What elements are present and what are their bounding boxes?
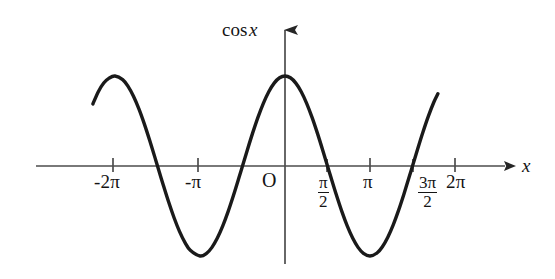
origin-label: O — [262, 170, 276, 190]
fraction-3pi-over-2: 3π 2 — [418, 174, 437, 210]
tick-label-2pi: 2π — [446, 172, 466, 191]
x-axis-label: x — [522, 156, 530, 175]
cos-function-figure: cos x x O -2π -π π 2π π 2 3π 2 — [0, 0, 555, 279]
tick-label-pi-over-2: π 2 — [318, 174, 329, 210]
fraction-pi-over-2: π 2 — [318, 174, 329, 210]
y-axis-label-var: x — [249, 19, 257, 40]
fraction-numerator: π — [318, 174, 329, 193]
tick-label-neg-2pi: -2π — [94, 172, 120, 191]
fraction-denominator: 2 — [418, 193, 437, 211]
y-axis-label: cos x — [222, 20, 257, 39]
fraction-numerator: 3π — [418, 174, 437, 193]
graph-canvas — [0, 0, 555, 279]
x-axis-tick-marks — [113, 158, 455, 172]
y-axis-label-func: cos — [222, 19, 247, 40]
tick-label-pi: π — [363, 172, 373, 191]
tick-label-neg-pi: -π — [185, 172, 201, 191]
fraction-denominator: 2 — [318, 193, 329, 211]
tick-label-3pi-over-2: 3π 2 — [418, 174, 437, 210]
